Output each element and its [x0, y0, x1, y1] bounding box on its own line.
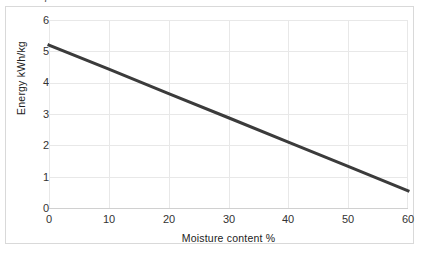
- series-energy-line: [49, 20, 408, 208]
- x-axis-title: Moisture content %: [49, 232, 408, 244]
- x-axis-tick-label-10: 10: [89, 214, 129, 225]
- x-axis-line: [49, 208, 408, 209]
- y-axis-tick-label-1: 1: [19, 172, 49, 183]
- y-axis-title: Energy kWh/kg: [14, 0, 28, 172]
- x-axis-tick-label-20: 20: [149, 214, 189, 225]
- plot-area: [49, 20, 408, 208]
- y-axis-tick-label-0: 0: [19, 203, 49, 214]
- chart-figure: 7 6 5 4 3 2 1 0 Energy kWh/kg 0 10 20 30…: [0, 0, 421, 262]
- x-axis-tick-label-30: 30: [209, 214, 249, 225]
- x-axis-tick-label-50: 50: [328, 214, 368, 225]
- x-axis-tick-label-0: 0: [29, 214, 69, 225]
- x-axis-tick-label-40: 40: [268, 214, 308, 225]
- x-axis-tick-label-60: 60: [388, 214, 421, 225]
